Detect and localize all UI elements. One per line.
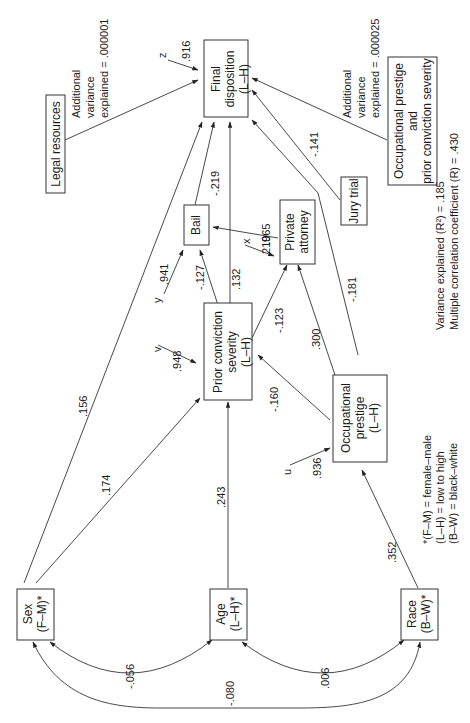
legal-var-line2: variance	[84, 76, 96, 118]
node-age-line1: Age	[214, 603, 228, 625]
corr-sex-race: -.080	[224, 681, 236, 706]
node-prior-conviction: Prior conviction severity (L–H)	[204, 303, 253, 400]
corr-age-race: .006	[319, 668, 331, 689]
node-occ-line3: (L–H)	[367, 403, 381, 433]
coef-occ-final: -.181	[346, 277, 358, 302]
node-final-line3: (L–H)	[237, 64, 251, 94]
node-occ-line2: prestige	[353, 396, 367, 439]
node-occprior-line2: and	[406, 111, 420, 131]
node-private-attorney: Private attorney	[280, 200, 315, 264]
occ-var-line3: explained = .000025	[369, 19, 381, 118]
legend-line1: *(F–M) = female–male	[421, 435, 433, 544]
residual-z-name: z	[156, 53, 168, 59]
coef-prior-attorney: -.123	[273, 308, 285, 333]
edge-jury-final	[252, 90, 340, 200]
node-attorney-line2: attorney	[297, 210, 311, 253]
node-prior-line2: severity	[225, 331, 239, 372]
occ-var-line1: Additional	[341, 70, 353, 118]
coef-occ-prior: -.160	[268, 387, 280, 412]
node-occ-prior-combined: Occupational prestige and prior convicti…	[388, 57, 437, 185]
coef-race-occ: .352	[386, 542, 398, 563]
node-prior-line3: (L–H)	[239, 337, 253, 367]
node-jury-label: Jury trial	[347, 178, 361, 223]
legal-var-line1: Additional	[70, 70, 82, 118]
node-sex-line1: Sex	[21, 604, 35, 625]
model-fit-stats: Variance explained (R²) = .185 Multiple …	[434, 133, 460, 330]
node-final-disposition: Final disposition (L–H)	[204, 40, 251, 117]
node-sex: Sex (F–M)*	[17, 589, 54, 640]
coef-age-prior: .243	[215, 487, 227, 508]
occ-var-line2: variance	[355, 76, 367, 118]
residual-u-name: u	[281, 469, 293, 475]
edge-race-occ	[362, 470, 418, 588]
node-race-line2: (B–W)*	[419, 594, 433, 633]
legend-line3: (B–W) = black–white	[447, 443, 459, 544]
edge-sex-prior	[36, 398, 200, 583]
legend-line2: (L–H) = low to high	[434, 451, 446, 544]
corr-sex-age: -.056	[124, 664, 136, 689]
node-final-line2: disposition	[223, 51, 237, 108]
coef-prior-final: .132	[230, 269, 242, 290]
coef-occ-attorney: .300	[310, 329, 322, 350]
node-occprior-line3: prior conviction severity	[420, 58, 434, 183]
coef-sex-prior: .174	[100, 475, 112, 496]
node-final-line1: Final	[209, 66, 223, 92]
node-race: Race (B–W)*	[401, 589, 438, 640]
residual-y-name: y	[151, 297, 163, 303]
node-bail-label: Bail	[189, 215, 203, 235]
annotation-legal-variance: Additional variance explained = .000001	[70, 19, 110, 118]
node-prior-line1: Prior conviction	[211, 311, 225, 393]
coef-bail-final: -.219	[209, 171, 221, 196]
coef-sex-final: .156	[77, 396, 89, 417]
legal-var-line3: explained = .000001	[98, 19, 110, 118]
node-occ-line1: Occupational	[339, 383, 353, 453]
coef-prior-bail: -.127	[194, 265, 206, 290]
residual-v-name: v	[151, 346, 163, 352]
node-legal-resources: Legal resources	[46, 95, 65, 193]
edge-occ-attorney	[298, 265, 335, 375]
path-diagram: Final disposition (L–H) Legal resources …	[0, 0, 470, 723]
annotation-occ-variance: Additional variance explained = .000025	[341, 19, 381, 118]
node-bail: Bail	[184, 205, 209, 245]
node-occupational-prestige: Occupational prestige (L–H)	[333, 375, 387, 462]
node-sex-line2: (F–M)*	[35, 595, 49, 632]
coef-jury-final: -.141	[308, 132, 320, 157]
residual-v-value: .948	[171, 351, 183, 372]
node-race-line1: Race	[405, 600, 419, 628]
node-age-line2: (L–H)*	[228, 596, 242, 631]
residual-z-value: .916	[180, 41, 192, 62]
node-legal-label: Legal resources	[49, 101, 63, 186]
edge-u-occ	[290, 448, 330, 465]
node-occprior-line1: Occupational prestige	[392, 63, 406, 179]
variance-explained: Variance explained (R²) = .185	[434, 181, 446, 330]
residual-x-name: x	[240, 238, 252, 244]
coef-attorney-bail: .210	[260, 236, 272, 257]
legend: *(F–M) = female–male (L–H) = low to high…	[421, 435, 459, 544]
residual-y-value: .941	[158, 264, 170, 285]
residual-u-value: .936	[311, 458, 323, 479]
multiple-correlation: Multiple correlation coefficient (R) = .…	[448, 133, 460, 330]
node-age: Age (L–H)*	[210, 589, 247, 640]
node-jury-trial: Jury trial	[341, 177, 367, 225]
node-attorney-line1: Private	[283, 213, 297, 251]
